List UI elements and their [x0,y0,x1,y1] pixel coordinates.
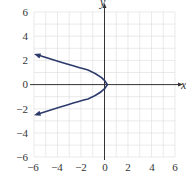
y-tick-neg2: −2 [16,103,28,115]
x-tick-0: 0 [102,161,108,172]
x-tick-neg6: −6 [27,161,39,172]
y-tick-2: 2 [23,54,29,66]
axes [30,6,180,160]
curve-arrow-top-icon [34,54,41,59]
y-tick-4: 4 [23,30,29,42]
x-tick-6: 6 [172,161,178,172]
curve-arrow-bottom-icon [34,111,41,116]
y-tick-labels: 6 4 2 0 −2 −4 −6 [16,6,28,163]
y-axis-label: y [99,0,106,9]
chart-canvas: x y 6 4 2 0 −2 −4 −6 −6 −4 −2 0 2 4 6 [0,0,186,172]
y-tick-0: 0 [23,78,29,90]
y-tick-neg4: −4 [16,127,28,139]
x-tick-neg4: −4 [51,161,63,172]
y-tick-6: 6 [23,6,29,18]
x-tick-4: 4 [149,161,155,172]
x-tick-neg2: −2 [75,161,87,172]
x-axis-label: x [180,78,186,92]
x-tick-2: 2 [125,161,131,172]
x-tick-labels: −6 −4 −2 0 2 4 6 [27,161,178,172]
